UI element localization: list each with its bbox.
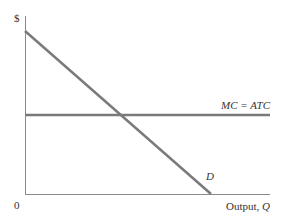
- demand-label: D: [206, 170, 214, 182]
- x-axis-label-var: Q: [262, 200, 270, 212]
- x-axis-label-text: Output,: [226, 200, 262, 212]
- mc-atc-label: MC = ATC: [221, 99, 270, 111]
- chart-canvas: [0, 0, 291, 224]
- demand-line: [25, 31, 211, 194]
- y-axis-label: $: [14, 12, 20, 24]
- origin-label: 0: [14, 199, 20, 211]
- x-axis-label: Output, Q: [226, 200, 270, 212]
